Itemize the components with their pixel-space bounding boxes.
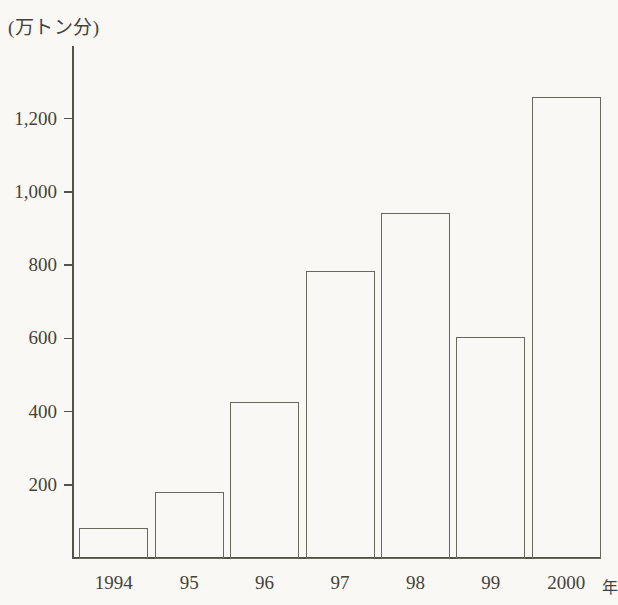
bar (230, 402, 299, 559)
y-axis-tick-mark: 1,000 (64, 191, 72, 192)
plot-area: 2004006008001,0001,200 19949596979899200… (72, 46, 600, 559)
y-axis-tick-label: 1,200 (14, 108, 57, 130)
x-axis-unit-label: 年 (602, 559, 618, 598)
x-axis-tick-label: 95 (180, 559, 199, 594)
y-axis-tick-mark: 600 (64, 338, 72, 339)
y-axis-line (72, 46, 74, 559)
y-axis-tick-label: 600 (29, 327, 58, 349)
x-axis-tick-label: 2000 (547, 559, 585, 594)
bar (79, 528, 148, 559)
x-axis-tick-label: 98 (406, 559, 425, 594)
y-axis-tick-label: 200 (29, 474, 58, 496)
bar (532, 97, 601, 559)
y-axis-tick-label: 400 (29, 401, 58, 423)
x-axis-tick-label: 96 (255, 559, 274, 594)
bar (456, 337, 525, 559)
y-axis-tick-mark: 800 (64, 264, 72, 265)
x-axis-tick-label: 1994 (95, 559, 133, 594)
y-axis-tick-mark: 400 (64, 411, 72, 412)
bar (155, 492, 224, 559)
bar (381, 213, 450, 559)
y-axis-unit-label: (万トン分) (8, 12, 100, 39)
bar (306, 271, 375, 559)
y-axis-tick-mark: 200 (64, 484, 72, 485)
y-axis-tick-label: 800 (29, 254, 58, 276)
y-axis-tick-mark: 1,200 (64, 118, 72, 119)
y-axis-tick-label: 1,000 (14, 181, 57, 203)
x-axis-tick-label: 97 (331, 559, 350, 594)
x-axis-tick-label: 99 (481, 559, 500, 594)
